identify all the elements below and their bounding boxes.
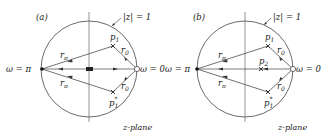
plane-label: z-plane [122, 123, 153, 132]
omega-zero-label: ω = 0 [140, 64, 165, 74]
r-pi-label-lower: rπ [60, 78, 69, 89]
r-pi-vector-upper [197, 46, 268, 69]
pole-p2-label: p2 [259, 56, 268, 67]
omega-zero-zero [134, 66, 139, 71]
omega-pi-point [40, 67, 44, 71]
r-pi-label-lower: rπ [218, 78, 227, 89]
plane-label: z-plane [277, 123, 308, 132]
r-pi-label-upper: rπ [60, 50, 69, 61]
pole-p1-conj-marker [111, 90, 115, 94]
panel-b: (b) |z| = 1 ω = π ω = 0 rπ rπ r0 r0 p1 p… [165, 12, 321, 132]
r-pi-vector-upper [42, 46, 113, 69]
arrow-icon [58, 68, 63, 71]
panel-a: (a) |z| = 1 ω = π ω = 0 rπ rπ r0 r0 p1 p… [6, 12, 165, 132]
omega-pi-point [195, 67, 199, 71]
panel-label: (b) [193, 12, 205, 22]
r-0-label-lower: r0 [121, 81, 129, 92]
z-plane-diagram: (a) |z| = 1 ω = π ω = 0 rπ rπ r0 r0 p1 p… [0, 0, 330, 140]
arrow-icon [263, 68, 268, 71]
r-pi-label-upper: rπ [218, 50, 227, 61]
pole-p1-marker [111, 44, 115, 48]
omega-zero-zero [290, 66, 295, 71]
pole-p1-label: p1 [265, 32, 274, 43]
panel-label: (a) [36, 12, 48, 22]
r-0-label-upper: r0 [277, 45, 285, 56]
pole-p1-conj-marker [266, 90, 270, 94]
pole-p1-conj-label: p*1 [109, 95, 118, 109]
unit-circle-label: |z| = 1 [273, 12, 301, 23]
arrow-icon [218, 68, 223, 71]
pole-p1-marker [266, 44, 270, 48]
r-pi-vector-lower [197, 69, 268, 92]
r-pi-vector-lower [42, 69, 113, 92]
pole-p1-conj-label: p*1 [264, 95, 273, 109]
omega-zero-label: ω = 0 [296, 64, 321, 74]
unit-circle-pointer [265, 18, 271, 24]
r-0-label-upper: r0 [121, 45, 129, 56]
unit-circle-pointer [113, 18, 121, 25]
r-0-label-lower: r0 [277, 81, 285, 92]
unit-circle-label: |z| = 1 [123, 12, 151, 23]
pole-p1-label: p1 [110, 32, 119, 43]
arrow-icon [113, 68, 118, 71]
omega-pi-label: ω = π [165, 64, 190, 74]
double-pole-marker [86, 67, 93, 71]
omega-pi-label: ω = π [6, 64, 31, 74]
